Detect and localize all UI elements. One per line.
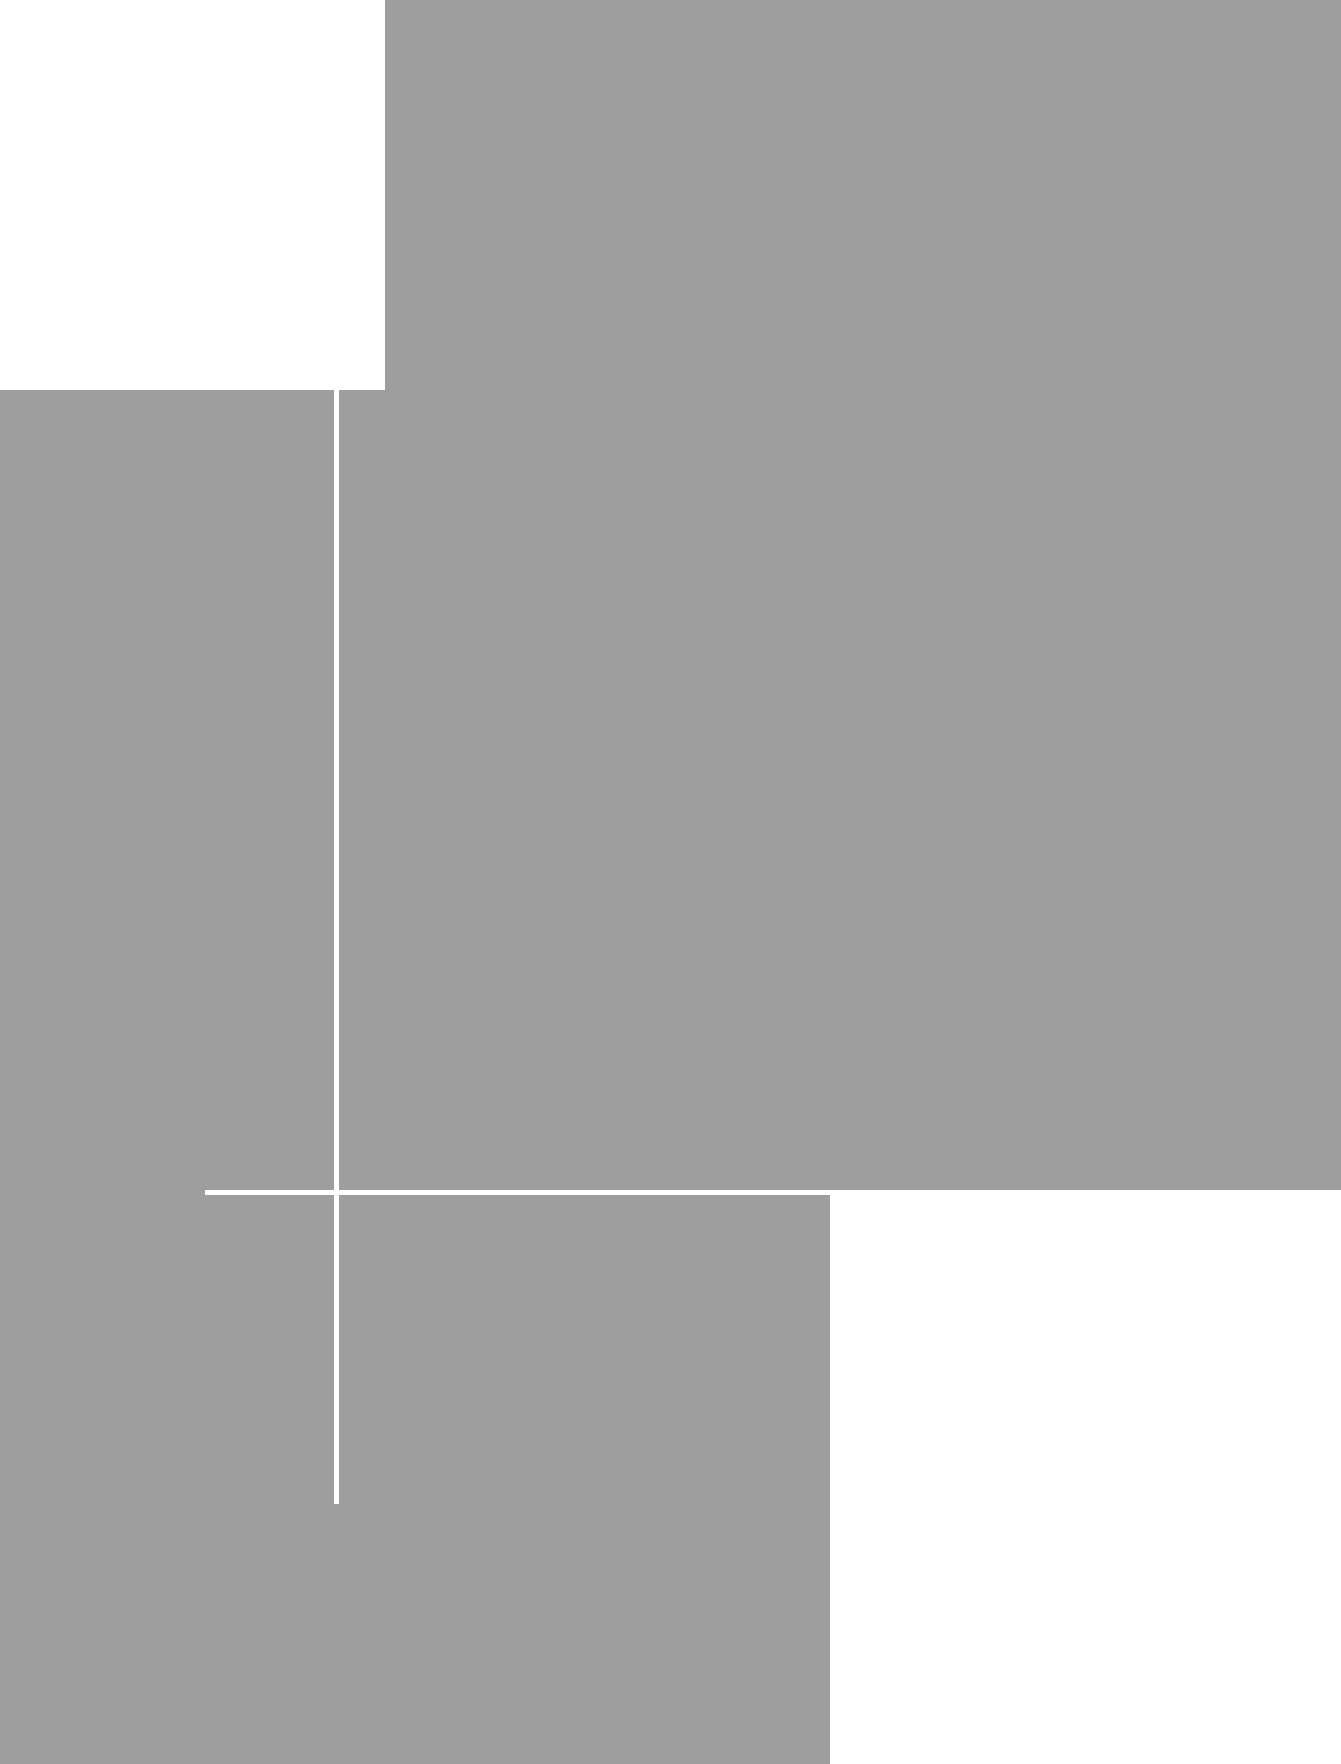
lower-left-gray-surface[interactable]: [0, 1190, 956, 1764]
main-gray-surface[interactable]: [337, 0, 1341, 1349]
screenshot-canvas: [0, 0, 1341, 1764]
horizontal-guide-rule[interactable]: [205, 1190, 940, 1195]
top-left-white-plate[interactable]: [0, 0, 385, 390]
vertical-guide-rule[interactable]: [334, 346, 339, 1504]
bottom-right-white-plate[interactable]: [830, 1190, 1341, 1764]
